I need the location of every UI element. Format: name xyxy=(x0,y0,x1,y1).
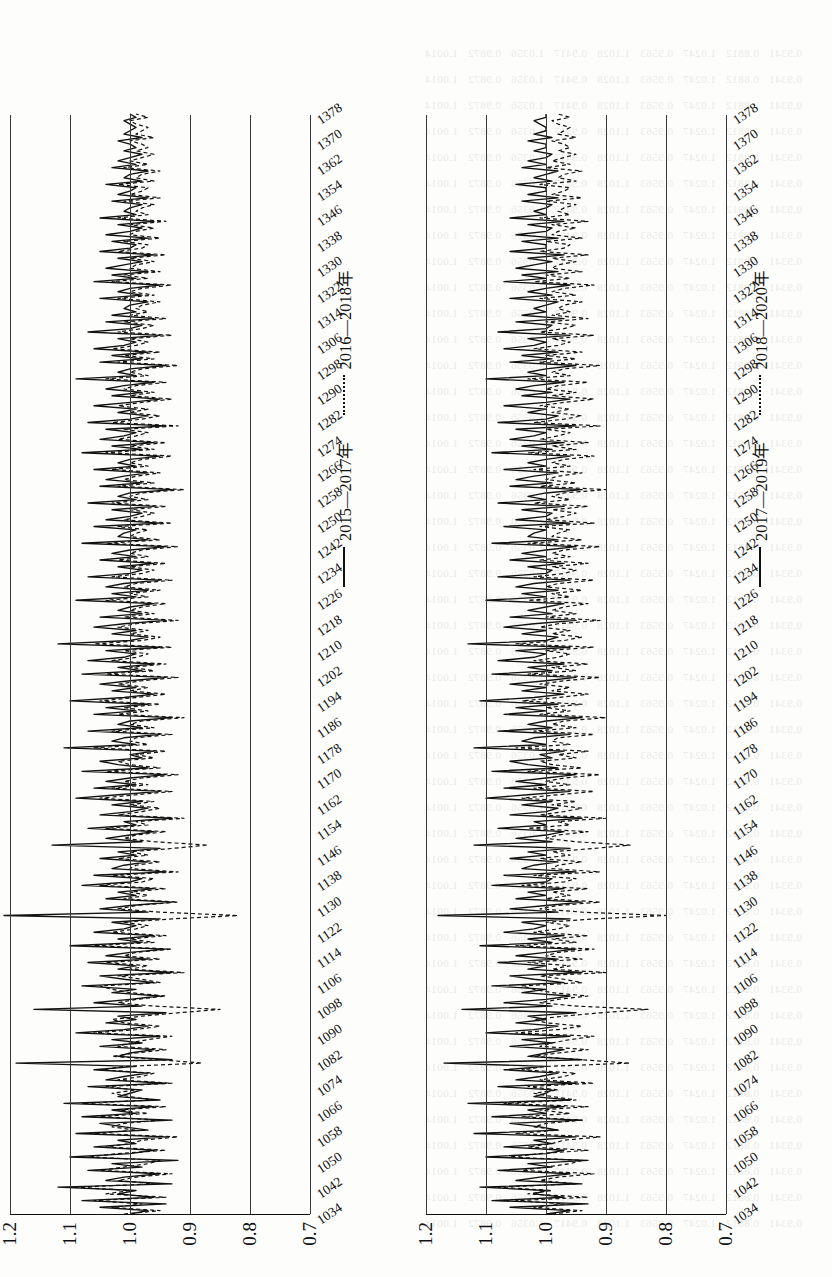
x-axis-tick-label: 1138 xyxy=(730,868,761,896)
x-axis-tick-label: 1106 xyxy=(730,970,761,998)
x-axis-tick-label: 1066 xyxy=(314,1098,345,1126)
x-axis-tick-label: 1346 xyxy=(730,202,761,230)
x-axis-tick-label: 1170 xyxy=(730,765,761,793)
x-axis-tick-label: 1338 xyxy=(314,228,345,256)
x-axis-tick-label: 1130 xyxy=(730,893,761,921)
x-axis-tick-label: 1090 xyxy=(314,1021,345,1049)
series-line-dashed xyxy=(498,114,666,1214)
chart-upper-container: 1.21.11.00.90.80.7 103410421050105810661… xyxy=(0,97,390,1277)
x-axis-tick-label: 1154 xyxy=(314,816,345,844)
x-axis-tick-label: 1042 xyxy=(314,1174,345,1202)
legend-label: 2015—2017年 xyxy=(332,442,356,542)
x-axis-tick-label: 1066 xyxy=(730,1098,761,1126)
gridline xyxy=(426,115,427,1214)
chart-upper-series-layer xyxy=(10,114,310,1214)
x-axis-tick-label: 1186 xyxy=(730,714,761,742)
gridline xyxy=(666,115,667,1214)
gridline xyxy=(130,115,131,1214)
y-axis-tick-label: 1.2 xyxy=(415,1222,437,1246)
x-axis-tick-label: 1122 xyxy=(314,919,345,947)
figure-page: 1.21.11.00.90.80.7 103410421050105810661… xyxy=(0,0,832,1277)
chart-upper-plot-area: 1.21.11.00.90.80.7 xyxy=(10,115,310,1215)
x-axis-tick-label: 1162 xyxy=(314,791,345,819)
gridline xyxy=(70,115,71,1214)
legend-label: 2018—2020年 xyxy=(748,270,772,370)
gridline xyxy=(546,115,547,1214)
x-axis-tick-label: 1370 xyxy=(730,125,761,153)
legend-label: 2016—2018年 xyxy=(332,270,356,370)
chart-lower-series-layer xyxy=(426,114,726,1214)
x-axis-tick-label: 1202 xyxy=(730,663,761,691)
x-axis-tick-label: 1114 xyxy=(314,945,345,973)
x-axis-tick-label: 1186 xyxy=(314,714,345,742)
legend-dashed-line-icon xyxy=(759,376,761,416)
y-axis-tick-label: 1.0 xyxy=(535,1222,557,1246)
gridline xyxy=(310,115,311,1214)
x-axis-tick-label: 1098 xyxy=(314,995,345,1023)
chart-lower-plot-area: 1.21.11.00.90.80.7 xyxy=(426,115,726,1215)
x-axis-tick-label: 1170 xyxy=(314,765,345,793)
x-axis-tick-label: 1194 xyxy=(730,689,761,717)
x-axis-tick-label: 1378 xyxy=(314,100,345,128)
x-axis-tick-label: 1050 xyxy=(730,1149,761,1177)
chart-upper-legend: 2015—2017年2016—2018年 xyxy=(332,270,356,587)
x-axis-tick-label: 1106 xyxy=(314,970,345,998)
legend-item: 2015—2017年 xyxy=(332,442,356,588)
legend-label: 2017—2019年 xyxy=(748,442,772,542)
chart-lower-container: 1.21.11.00.90.80.7 103410421050105810661… xyxy=(416,97,806,1277)
x-axis-tick-label: 1162 xyxy=(730,791,761,819)
x-axis-tick-label: 1378 xyxy=(730,100,761,128)
x-axis-tick-label: 1082 xyxy=(730,1046,761,1074)
gridline xyxy=(250,115,251,1214)
x-axis-tick-label: 1370 xyxy=(314,125,345,153)
chart-lower: 1.21.11.00.90.80.7 103410421050105810661… xyxy=(416,97,806,1277)
x-axis-tick-label: 1042 xyxy=(730,1174,761,1202)
legend-dashed-line-icon xyxy=(343,376,345,416)
x-axis-tick-label: 1218 xyxy=(730,612,761,640)
x-axis-tick-label: 1082 xyxy=(314,1046,345,1074)
x-axis-tick-label: 1074 xyxy=(730,1072,761,1100)
x-axis-tick-label: 1090 xyxy=(730,1021,761,1049)
y-axis-tick-label: 0.9 xyxy=(595,1222,617,1246)
x-axis-tick-label: 1138 xyxy=(314,868,345,896)
x-axis-tick-label: 1354 xyxy=(314,177,345,205)
gridline xyxy=(726,115,727,1214)
y-axis-tick-label: 0.7 xyxy=(299,1222,321,1246)
y-axis-tick-label: 0.7 xyxy=(715,1222,737,1246)
x-axis-tick-label: 1346 xyxy=(314,202,345,230)
x-axis-tick-label: 1354 xyxy=(730,177,761,205)
gridline xyxy=(606,115,607,1214)
x-axis-tick-label: 1202 xyxy=(314,663,345,691)
gridline xyxy=(486,115,487,1214)
y-axis-tick-label: 0.8 xyxy=(655,1222,677,1246)
x-axis-tick-label: 1114 xyxy=(730,945,761,973)
legend-item: 2017—2019年 xyxy=(748,442,772,588)
x-axis-tick-label: 1122 xyxy=(730,919,761,947)
legend-item: 2016—2018年 xyxy=(332,270,356,416)
chart-upper: 1.21.11.00.90.80.7 103410421050105810661… xyxy=(0,97,390,1277)
series-line-dashed xyxy=(76,114,238,1214)
y-axis-tick-label: 0.8 xyxy=(239,1222,261,1246)
x-axis-tick-label: 1210 xyxy=(730,637,761,665)
x-axis-tick-label: 1098 xyxy=(730,995,761,1023)
gridline xyxy=(190,115,191,1214)
gridline xyxy=(10,115,11,1214)
y-axis-tick-label: 0.9 xyxy=(179,1222,201,1246)
x-axis-tick-label: 1226 xyxy=(730,586,761,614)
x-axis-tick-label: 1210 xyxy=(314,637,345,665)
x-axis-tick-label: 1146 xyxy=(314,842,345,870)
x-axis-tick-label: 1362 xyxy=(730,151,761,179)
x-axis-tick-label: 1362 xyxy=(314,151,345,179)
x-axis-tick-label: 1130 xyxy=(314,893,345,921)
x-axis-tick-label: 1218 xyxy=(314,612,345,640)
y-axis-tick-label: 1.1 xyxy=(475,1222,497,1246)
legend-item: 2018—2020年 xyxy=(748,270,772,416)
y-axis-tick-label: 1.0 xyxy=(119,1222,141,1246)
x-axis-tick-label: 1338 xyxy=(730,228,761,256)
x-axis-tick-label: 1074 xyxy=(314,1072,345,1100)
legend-solid-line-icon xyxy=(759,547,761,587)
x-axis-tick-label: 1178 xyxy=(314,740,345,768)
x-axis-tick-label: 1154 xyxy=(730,816,761,844)
y-axis-tick-label: 1.1 xyxy=(59,1222,81,1246)
x-axis-tick-label: 1178 xyxy=(730,740,761,768)
